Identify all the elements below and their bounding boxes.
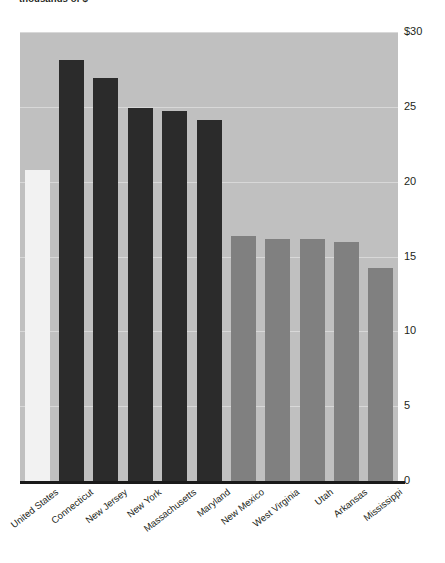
y-tick-0: 0 (404, 475, 410, 486)
bar-massachusetts (162, 111, 187, 481)
bar-maryland (197, 120, 222, 481)
y-tick-15: 15 (404, 251, 416, 262)
y-tick-20: 20 (404, 176, 416, 187)
x-label-united-states: United States (9, 487, 60, 530)
x-label-utah: Utah (313, 487, 335, 507)
bar-new-mexico (231, 236, 256, 481)
bar-new-york (128, 108, 153, 481)
y-tick-5: 5 (404, 400, 410, 411)
bar-mississippi (368, 268, 393, 481)
bar-new-jersey (93, 78, 118, 481)
chart-title: thousands of $ (19, 0, 88, 4)
bar-arkansas (334, 242, 359, 481)
y-tick-10: 10 (404, 325, 416, 336)
x-axis-line (20, 481, 405, 484)
bar-west-virginia (265, 239, 290, 481)
gridline-30 (20, 32, 398, 33)
bar-connecticut (59, 60, 84, 481)
y-tick-30: $30 (404, 26, 422, 37)
bar-united-states (25, 170, 50, 481)
plot-area (20, 32, 398, 481)
y-tick-25: 25 (404, 101, 416, 112)
bar-utah (300, 239, 325, 481)
